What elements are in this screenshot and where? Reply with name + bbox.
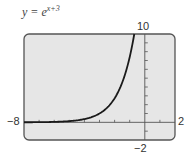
plot-frame [24,34,175,140]
x-min-label: −8 [7,115,20,127]
y-max-label: 10 [137,20,149,32]
x-max-label: 2 [178,115,184,127]
plot-area [0,0,186,159]
y-min-label: −2 [134,142,147,154]
